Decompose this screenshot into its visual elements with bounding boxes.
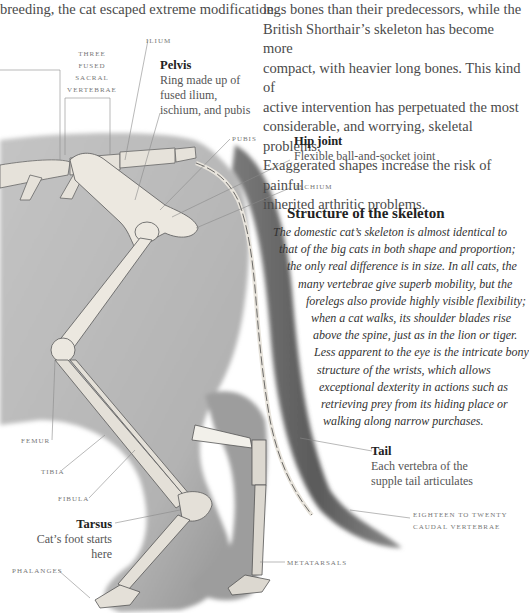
paragraph-line: legs bones than their predecessors, whil… — [263, 0, 523, 20]
label-line: CAUDAL VERTEBRAE — [413, 521, 508, 533]
paragraph-line: British Shorthair’s skeleton has become … — [263, 20, 523, 59]
label-ilium: ILIUM — [146, 35, 171, 47]
label-desc: Ring made up of — [160, 73, 250, 88]
label-hip-joint: Hip joint Flexible ball-and-socket joint — [294, 134, 435, 164]
label-fibula: FIBULA — [58, 493, 89, 505]
structure-line: walking along narrow purchases. — [323, 413, 529, 430]
structure-line: Less apparent to the eye is the intricat… — [314, 344, 529, 361]
label-line: SACRAL — [62, 72, 122, 84]
label-tail: Tail Each vertebra of the supple tail ar… — [371, 444, 473, 489]
label-femur: FEMUR — [21, 435, 50, 447]
structure-line: many vertebrae give superb mobility, but… — [298, 276, 529, 293]
structure-line: when a cat walks, its shoulder blades ri… — [311, 310, 529, 327]
label-tarsus: Tarsus Cat’s foot starts here — [27, 517, 112, 562]
label-title: Pelvis — [160, 58, 250, 73]
label-ischium: ISCHIUM — [296, 181, 333, 193]
label-sacral-vertebrae: THREE FUSED SACRAL VERTEBRAE — [62, 48, 122, 96]
label-desc: Cat’s foot starts here — [27, 532, 112, 562]
label-line: FUSED — [62, 60, 122, 72]
paragraph-line: active intervention has perpetuated the … — [263, 98, 523, 118]
structure-title: Structure of the skeleton — [287, 205, 445, 222]
label-title: Tail — [371, 444, 473, 459]
label-title: Hip joint — [294, 134, 435, 149]
label-line: EIGHTEEN TO TWENTY — [413, 509, 508, 521]
structure-line: the only real difference is in size. In … — [287, 258, 529, 275]
paragraph-line: compact, with heavier long bones. This k… — [263, 59, 523, 98]
structure-line: above the spine, just as in the lion or … — [313, 327, 529, 344]
label-tibia: TIBIA — [41, 466, 65, 478]
structure-text: The domestic cat’s skeleton is almost id… — [270, 224, 529, 430]
label-caudal-vertebrae: EIGHTEEN TO TWENTY CAUDAL VERTEBRAE — [413, 509, 508, 533]
label-title: Tarsus — [27, 517, 112, 532]
label-pelvis: Pelvis Ring made up of fused ilium, isch… — [160, 58, 250, 118]
label-desc: Each vertebra of the — [371, 459, 473, 474]
label-desc: ischium, and pubis — [160, 103, 250, 118]
structure-line: forelegs also provide highly visible fle… — [306, 293, 529, 310]
intro-text-left: breeding, the cat escaped extreme modifi… — [0, 0, 277, 20]
structure-line: that of the big cats in both shape and p… — [279, 241, 529, 258]
structure-line: structure of the wrists, which allows — [317, 362, 529, 379]
label-metatarsals: METATARSALS — [287, 557, 347, 569]
label-phalanges: PHALANGES — [12, 565, 63, 577]
label-desc: supple tail articulates — [371, 474, 473, 489]
structure-line: retrieving prey from its hiding place or — [321, 396, 529, 413]
label-line: THREE — [62, 48, 122, 60]
label-pubis: PUBIS — [232, 133, 257, 145]
structure-line: The domestic cat’s skeleton is almost id… — [273, 224, 529, 241]
structure-line: exceptional dexterity in actions such as — [319, 379, 529, 396]
label-desc: Flexible ball-and-socket joint — [294, 149, 435, 164]
label-line: VERTEBRAE — [62, 84, 122, 96]
label-desc: fused ilium, — [160, 88, 250, 103]
